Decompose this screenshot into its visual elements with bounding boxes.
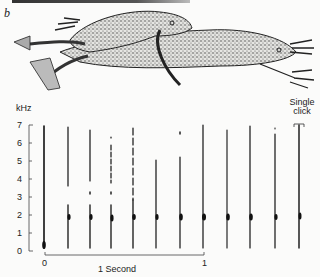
time-scale-label: 1 Second: [98, 264, 136, 274]
x-tick-1: 1: [202, 258, 207, 268]
x-tick-0: 0: [42, 258, 47, 268]
spectrogram: [0, 0, 320, 277]
